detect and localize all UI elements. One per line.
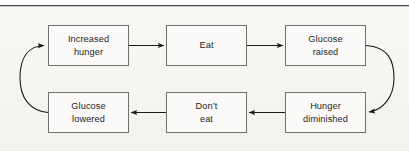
connector-glucose-lowered-to-increased-hunger xyxy=(20,46,48,113)
node-eat[interactable]: Eat xyxy=(166,25,247,66)
node-glucose-raised[interactable]: Glucose raised xyxy=(285,25,366,66)
node-dont-eat-label: Don’t eat xyxy=(196,100,218,125)
node-glucose-lowered-label: Glucose lowered xyxy=(71,100,105,125)
node-hunger-diminished[interactable]: Hunger diminished xyxy=(285,92,366,133)
connector-glucose-raised-to-hunger-diminished xyxy=(366,46,394,113)
node-increased-hunger-label: Increased hunger xyxy=(68,33,109,58)
node-dont-eat[interactable]: Don’t eat xyxy=(166,92,247,133)
node-glucose-lowered[interactable]: Glucose lowered xyxy=(48,92,129,133)
node-glucose-raised-label: Glucose raised xyxy=(308,33,342,58)
node-increased-hunger[interactable]: Increased hunger xyxy=(48,25,129,66)
diagram-page: Increased hunger Eat Glucose raised Gluc… xyxy=(0,0,409,151)
node-eat-label: Eat xyxy=(199,39,213,52)
node-hunger-diminished-label: Hunger diminished xyxy=(303,100,348,125)
